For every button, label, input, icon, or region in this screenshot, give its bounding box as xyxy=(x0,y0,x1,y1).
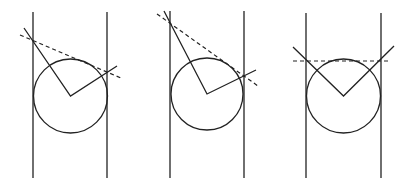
panel-3 xyxy=(293,13,394,178)
dashed-tangent-line xyxy=(157,14,258,86)
v-line xyxy=(293,46,394,96)
panel-1 xyxy=(20,12,121,178)
tangent-circle-diagram xyxy=(0,0,412,187)
panel-2 xyxy=(157,11,258,178)
v-line xyxy=(24,28,117,96)
dashed-tangent-line xyxy=(20,35,121,78)
